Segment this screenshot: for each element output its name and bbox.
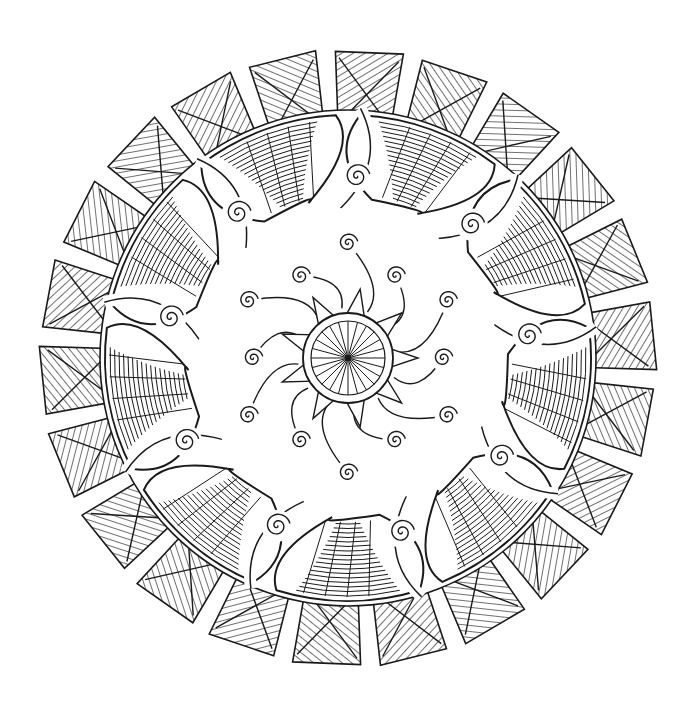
- mandala-artwork: [0, 0, 696, 712]
- mandala-svg: [0, 0, 696, 712]
